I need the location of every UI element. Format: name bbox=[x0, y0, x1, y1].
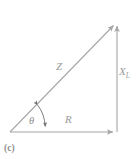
impedance-triangle-drawing bbox=[0, 0, 138, 159]
hypotenuse-Z-arrow bbox=[10, 26, 114, 133]
figure-caption: (c) bbox=[4, 144, 15, 154]
impedance-triangle-figure: Z XL R θ (c) bbox=[0, 0, 138, 159]
label-impedance-Z: Z bbox=[56, 61, 62, 72]
label-reactance-XL-base: X bbox=[119, 65, 126, 77]
label-reactance-XL-subscript: L bbox=[126, 71, 130, 80]
label-phase-angle-theta: θ bbox=[29, 116, 34, 127]
label-reactance-XL: XL bbox=[119, 66, 130, 80]
phase-angle-arc bbox=[38, 105, 46, 127]
label-resistance-R: R bbox=[65, 114, 72, 125]
